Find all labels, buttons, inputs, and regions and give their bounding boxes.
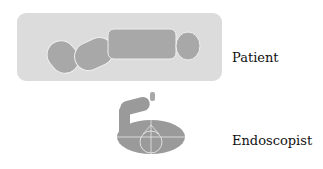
endoscopist-figure [117, 92, 185, 154]
endoscopist-label: Endoscopist [232, 133, 312, 148]
patient-label: Patient [232, 50, 279, 65]
